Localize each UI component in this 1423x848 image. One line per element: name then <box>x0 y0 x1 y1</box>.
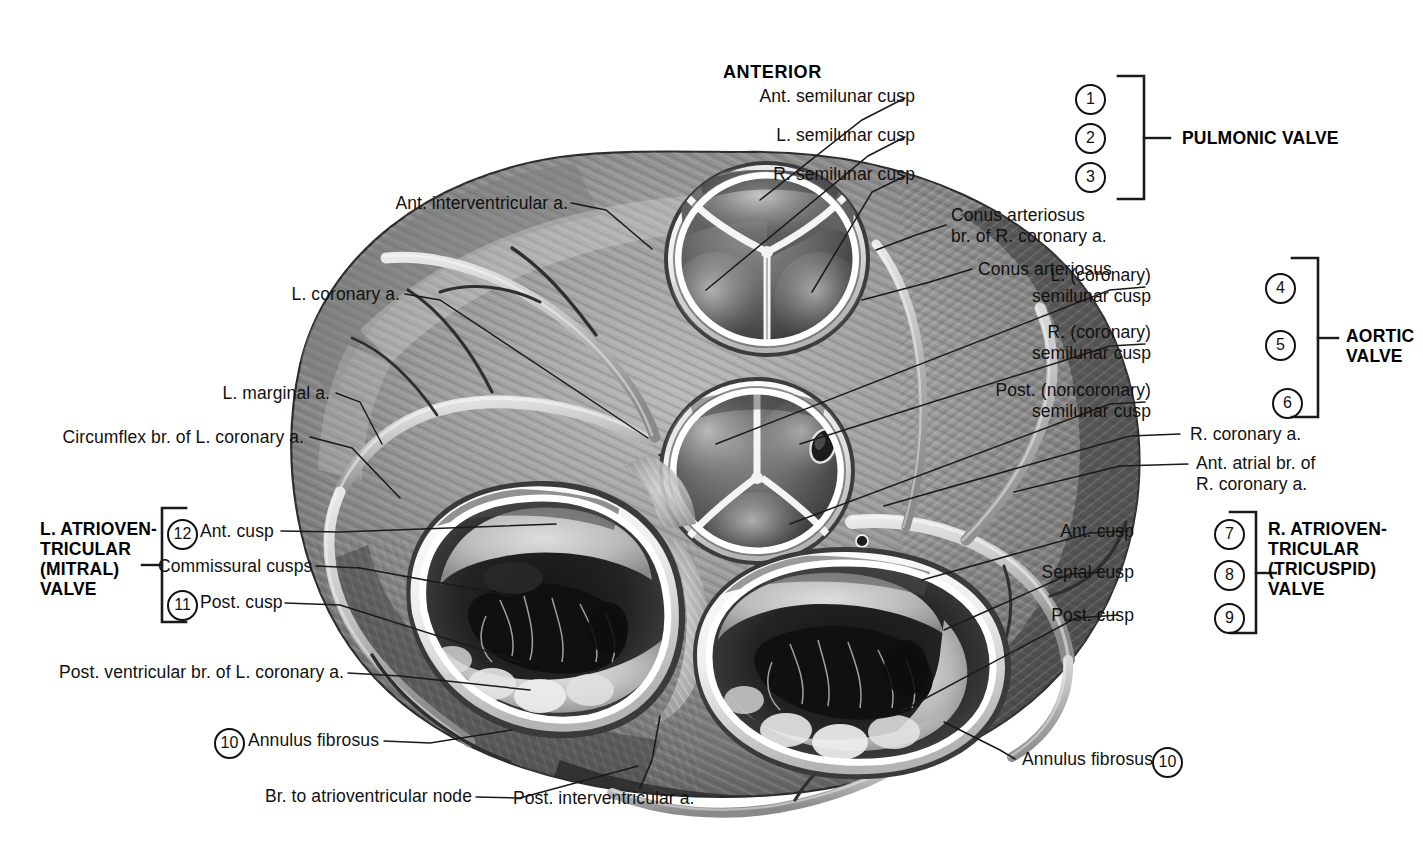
label-mitral-ant-cusp: Ant. cusp <box>200 521 274 542</box>
group-left-av-valve: L. ATRIOVEN- TRICULAR (MITRAL) VALVE <box>40 519 157 599</box>
marker-11: 11 <box>167 590 198 621</box>
label-ant-interventricular-a: Ant. interventricular a. <box>338 193 568 214</box>
label-l-semilunar-cusp: L. semilunar cusp <box>703 125 915 146</box>
label-annulus-fibrosus-left: Annulus fibrosus <box>248 730 379 751</box>
group-pulmonic-valve: PULMONIC VALVE <box>1182 128 1339 148</box>
group-right-av-valve: R. ATRIOVEN- TRICULAR (TRICUSPID) VALVE <box>1268 519 1387 599</box>
marker-8: 8 <box>1214 560 1245 591</box>
label-r-coronary-a: R. coronary a. <box>1190 424 1301 445</box>
illustration-stage: ANTERIOR Ant. semilunar cusp 1 L. semilu… <box>0 0 1423 848</box>
label-l-coronary-cusp: L. (coronary) semilunar cusp <box>935 265 1151 307</box>
marker-3: 3 <box>1075 162 1106 193</box>
label-post-noncoronary-cusp: Post. (noncoronary) semilunar cusp <box>915 380 1151 422</box>
label-br-to-av-node: Br. to atrioventricular node <box>230 786 472 807</box>
label-l-marginal-a: L. marginal a. <box>178 383 330 404</box>
page-title: ANTERIOR <box>723 62 822 83</box>
label-mitral-post-cusp: Post. cusp <box>200 592 283 613</box>
group-aortic-valve: AORTIC VALVE <box>1346 326 1414 366</box>
label-tricuspid-septal-cusp: Septal cusp <box>980 562 1134 583</box>
marker-2: 2 <box>1075 123 1106 154</box>
marker-5: 5 <box>1265 330 1296 361</box>
label-post-interventricular-a: Post. interventricular a. <box>513 788 694 809</box>
marker-9: 9 <box>1214 603 1245 634</box>
marker-10-right: 10 <box>1152 747 1183 778</box>
label-commissural-cusps: Commissural cusps <box>158 556 312 577</box>
label-conus-br-rca: Conus arteriosus br. of R. coronary a. <box>951 205 1107 247</box>
label-tricuspid-post-cusp: Post. cusp <box>1000 605 1134 626</box>
marker-1: 1 <box>1075 84 1106 115</box>
marker-7: 7 <box>1214 519 1245 550</box>
marker-12: 12 <box>167 519 198 550</box>
label-r-semilunar-cusp: R. semilunar cusp <box>703 164 915 185</box>
label-l-coronary-a: L. coronary a. <box>240 284 400 305</box>
label-ant-semilunar-cusp: Ant. semilunar cusp <box>703 86 915 107</box>
label-tricuspid-ant-cusp: Ant. cusp <box>1000 521 1134 542</box>
tricuspid-valve-orifice <box>693 547 1011 779</box>
marker-4: 4 <box>1265 273 1296 304</box>
pulmonic-valve <box>664 161 870 357</box>
label-r-coronary-cusp: R. (coronary) semilunar cusp <box>935 322 1151 364</box>
marker-10-left: 10 <box>214 728 245 759</box>
label-circumflex-br: Circumflex br. of L. coronary a. <box>46 427 304 448</box>
label-post-ventricular-br: Post. ventricular br. of L. coronary a. <box>48 662 344 683</box>
label-annulus-fibrosus-right: Annulus fibrosus <box>1022 749 1153 770</box>
marker-6: 6 <box>1272 388 1303 419</box>
label-ant-atrial-br: Ant. atrial br. of R. coronary a. <box>1196 453 1316 495</box>
